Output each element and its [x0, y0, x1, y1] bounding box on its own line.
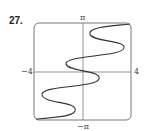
plot-area	[0, 0, 149, 131]
x-max-label: 4	[134, 68, 139, 76]
plot-frame	[34, 23, 131, 120]
y-min-label: −π	[77, 123, 89, 131]
x-min-label: −4	[21, 68, 33, 76]
y-max-label: π	[80, 14, 85, 22]
